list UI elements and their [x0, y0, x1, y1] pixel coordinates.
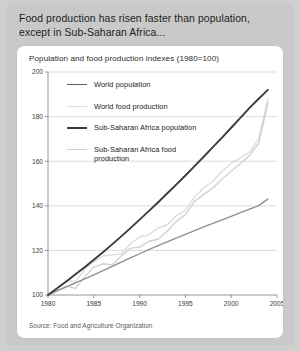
legend-item: World food production	[67, 102, 196, 111]
chart-source: Source: Food and Agriculture Organizatio…	[29, 322, 152, 329]
page-title: Food production has risen faster than po…	[19, 12, 281, 40]
legend-label-ssa-food-production: Sub-Saharan Africa foodproduction	[94, 145, 176, 163]
legend-label-world-population: World population	[94, 80, 151, 89]
svg-text:2000: 2000	[224, 300, 239, 307]
svg-text:200: 200	[32, 68, 43, 75]
svg-text:180: 180	[32, 113, 43, 120]
legend-swatch-ssa-population	[67, 127, 87, 129]
legend-swatch-world-population	[67, 84, 87, 85]
svg-text:160: 160	[32, 158, 43, 165]
chart-panel: Population and food production indexes (…	[17, 46, 283, 338]
chart-card: Food production has risen faster than po…	[5, 3, 295, 346]
svg-text:1980: 1980	[41, 300, 56, 307]
legend-item: Sub-Saharan Africa population	[67, 123, 196, 132]
legend-swatch-world-food-production	[67, 106, 87, 107]
svg-text:2005: 2005	[270, 300, 283, 307]
svg-text:1995: 1995	[178, 300, 193, 307]
svg-text:1985: 1985	[86, 300, 101, 307]
legend-swatch-ssa-food-production	[67, 149, 87, 150]
svg-text:120: 120	[32, 247, 43, 254]
legend-item: Sub-Saharan Africa foodproduction	[67, 145, 196, 163]
legend-label-ssa-population: Sub-Saharan Africa population	[94, 123, 196, 132]
svg-text:140: 140	[32, 202, 43, 209]
svg-text:1990: 1990	[132, 300, 147, 307]
svg-text:100: 100	[32, 291, 43, 298]
legend-label-world-food-production: World food production	[94, 102, 168, 111]
legend-item: World population	[67, 80, 196, 89]
chart-legend: World population World food production S…	[67, 80, 196, 176]
